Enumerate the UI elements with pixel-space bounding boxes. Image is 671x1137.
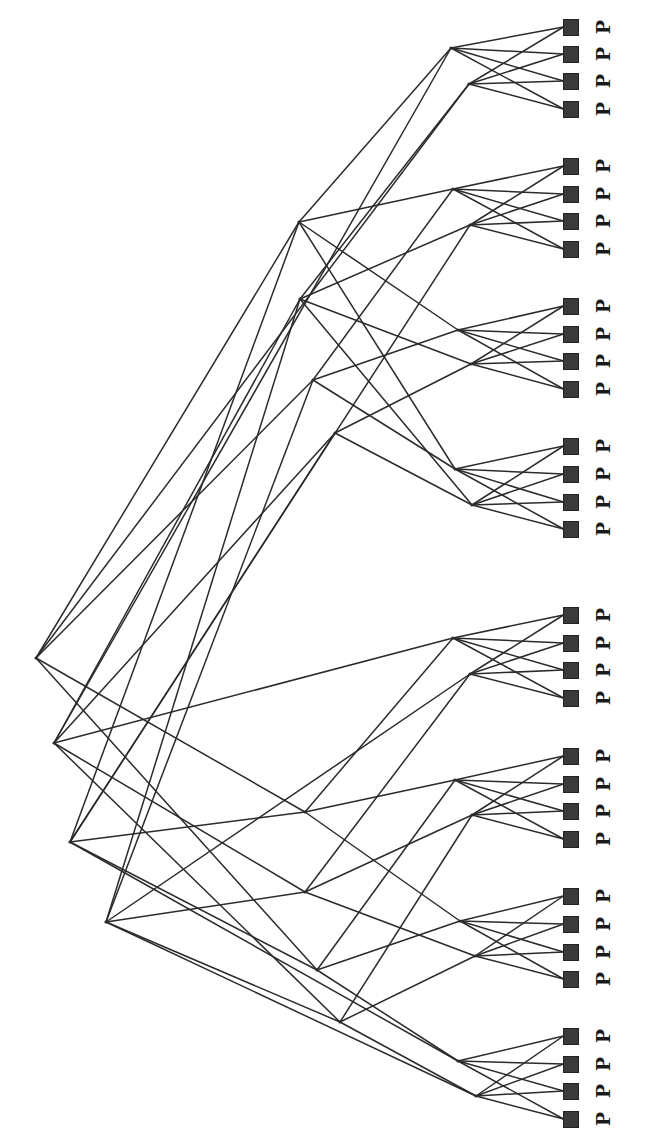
core-spine-link bbox=[36, 658, 317, 970]
leaf-processor-link bbox=[475, 896, 564, 956]
processor-label: P bbox=[592, 354, 614, 368]
processor-label: P bbox=[592, 467, 614, 481]
processor-label: P bbox=[592, 242, 614, 256]
processor-node bbox=[564, 917, 579, 933]
processor-label: P bbox=[592, 439, 614, 453]
processor-node bbox=[564, 495, 579, 511]
core-spine-link bbox=[106, 922, 340, 1022]
processor-label: P bbox=[592, 214, 614, 228]
leaf-switch bbox=[453, 467, 456, 470]
leaf-processor-link bbox=[470, 615, 564, 674]
leaf-processor-link bbox=[458, 1061, 564, 1064]
leaf-processor-link bbox=[460, 921, 564, 924]
leaf-processor-link bbox=[472, 815, 564, 839]
processor-label: P bbox=[592, 159, 614, 173]
processor-label: P bbox=[592, 945, 614, 959]
core-switch bbox=[34, 656, 37, 659]
processor-label: P bbox=[592, 299, 614, 313]
leaf-switch bbox=[467, 82, 470, 85]
core-spine-link bbox=[54, 433, 335, 743]
leaf-processor-link bbox=[472, 505, 564, 529]
spine-switch bbox=[303, 810, 306, 813]
leaf-uplink bbox=[36, 84, 469, 658]
processor-node bbox=[564, 47, 579, 63]
leaf-processor-link bbox=[471, 364, 564, 389]
processor-node bbox=[564, 945, 579, 961]
leaf-uplink bbox=[106, 674, 470, 922]
leaf-switch bbox=[449, 46, 452, 49]
leaf-processor-link bbox=[472, 446, 564, 505]
processor-label: P bbox=[592, 889, 614, 903]
leaf-uplink bbox=[305, 812, 460, 921]
leaf-processor-link bbox=[460, 921, 564, 952]
leaf-uplink bbox=[335, 433, 472, 505]
processor-label: P bbox=[592, 102, 614, 116]
network-links bbox=[36, 27, 564, 1119]
core-spine-link bbox=[70, 222, 299, 842]
processor-node bbox=[564, 354, 579, 370]
leaf-processor-link bbox=[451, 48, 564, 109]
processor-node bbox=[564, 608, 579, 624]
leaf-processor-link bbox=[475, 952, 564, 956]
processor-node bbox=[564, 159, 579, 175]
leaf-processor-link bbox=[453, 615, 564, 638]
processor-label: P bbox=[592, 1112, 614, 1126]
processor-label: P bbox=[592, 74, 614, 88]
processor-label: P bbox=[592, 608, 614, 622]
processor-label: P bbox=[592, 832, 614, 846]
processor-node bbox=[564, 187, 579, 203]
leaf-switch bbox=[468, 223, 471, 226]
leaf-processor-link bbox=[453, 166, 564, 189]
leaf-switch bbox=[470, 503, 473, 506]
leaf-uplink bbox=[300, 299, 472, 505]
core-switch bbox=[68, 840, 71, 843]
leaf-processor-link bbox=[476, 1096, 564, 1119]
core-spine-link bbox=[36, 658, 305, 812]
processor-node bbox=[564, 636, 579, 652]
processor-label: P bbox=[592, 691, 614, 705]
processor-label: P bbox=[592, 187, 614, 201]
leaf-uplink bbox=[70, 842, 458, 1061]
leaf-uplink bbox=[299, 222, 455, 469]
leaf-processor-link bbox=[453, 189, 564, 249]
spine-switch bbox=[333, 431, 336, 434]
processor-node bbox=[564, 1057, 579, 1073]
processor-label: P bbox=[592, 804, 614, 818]
processor-node bbox=[564, 1112, 579, 1128]
processor-node bbox=[564, 777, 579, 793]
core-spine-link bbox=[106, 299, 300, 922]
leaf-switch bbox=[474, 1094, 477, 1097]
processor-node bbox=[564, 972, 579, 988]
leaf-switch bbox=[451, 187, 454, 190]
leaf-processor-link bbox=[460, 896, 564, 921]
processor-label: P bbox=[592, 972, 614, 986]
leaf-processor-link bbox=[475, 956, 564, 979]
leaf-processor-link bbox=[470, 225, 564, 249]
core-spine-link bbox=[106, 892, 305, 922]
leaf-processor-link bbox=[470, 166, 564, 225]
processor-node bbox=[564, 663, 579, 679]
processor-node bbox=[564, 467, 579, 483]
processor-nodes: PPPPPPPPPPPPPPPPPPPPPPPPPPPPPPPP bbox=[564, 20, 615, 1128]
processor-node bbox=[564, 382, 579, 398]
processor-label: P bbox=[592, 749, 614, 763]
leaf-processor-link bbox=[470, 674, 564, 698]
processor-label: P bbox=[592, 1029, 614, 1043]
core-spine-link bbox=[54, 743, 340, 1022]
processor-node bbox=[564, 889, 579, 905]
processor-label: P bbox=[592, 777, 614, 791]
processor-node bbox=[564, 214, 579, 230]
fat-tree-diagram: PPPPPPPPPPPPPPPPPPPPPPPPPPPPPPPP bbox=[0, 0, 671, 1137]
leaf-switch bbox=[473, 954, 476, 957]
leaf-processor-link bbox=[455, 446, 564, 469]
processor-node bbox=[564, 522, 579, 538]
leaf-switch bbox=[470, 813, 473, 816]
spine-switch bbox=[303, 890, 306, 893]
leaf-switch bbox=[456, 328, 459, 331]
leaf-switch bbox=[468, 672, 471, 675]
processor-label: P bbox=[592, 47, 614, 61]
core-spine-link bbox=[70, 842, 317, 970]
core-spine-link bbox=[36, 380, 313, 658]
leaf-processor-link bbox=[455, 469, 564, 529]
leaf-processor-link bbox=[471, 306, 564, 364]
